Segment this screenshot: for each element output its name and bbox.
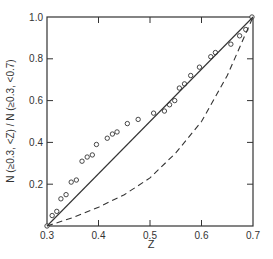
data-point xyxy=(110,132,114,136)
data-point xyxy=(55,209,59,213)
data-point xyxy=(173,98,177,102)
data-point xyxy=(229,42,233,46)
data-point xyxy=(50,213,54,217)
x-axis-label: Z xyxy=(148,238,155,250)
y-tick-label: 1.0 xyxy=(29,12,43,23)
data-point xyxy=(59,197,63,201)
data-point xyxy=(125,121,129,125)
data-point xyxy=(188,73,192,77)
data-point xyxy=(197,65,201,69)
data-point xyxy=(94,142,98,146)
data-point xyxy=(237,34,241,38)
data-point xyxy=(136,117,140,121)
solid-line xyxy=(47,17,253,226)
y-tick-label: 0.6 xyxy=(29,95,43,106)
x-tick-label: 0.4 xyxy=(92,230,106,241)
data-point xyxy=(69,180,73,184)
data-point xyxy=(115,130,119,134)
data-point xyxy=(162,109,166,113)
data-point xyxy=(151,111,155,115)
y-tick-labels: 0.20.40.60.81.0 xyxy=(29,12,43,190)
x-tick-label: 0.3 xyxy=(40,230,54,241)
chart: 0.30.40.50.60.7 0.20.40.60.81.0 Z N (≥0.… xyxy=(0,0,273,259)
y-tick-label: 0.4 xyxy=(29,137,43,148)
y-tick-label: 0.8 xyxy=(29,53,43,64)
y-axis-label: N (≥0.3, <Z) / N (≥0.3, <0.7) xyxy=(5,59,16,182)
x-tick-label: 0.6 xyxy=(195,230,209,241)
data-point xyxy=(74,178,78,182)
x-tick-label: 0.7 xyxy=(246,230,260,241)
data-point xyxy=(90,153,94,157)
data-point xyxy=(105,136,109,140)
data-point xyxy=(80,159,84,163)
data-point xyxy=(85,155,89,159)
data-point xyxy=(64,192,68,196)
y-tick-label: 0.2 xyxy=(29,179,43,190)
series-layer xyxy=(45,15,254,228)
